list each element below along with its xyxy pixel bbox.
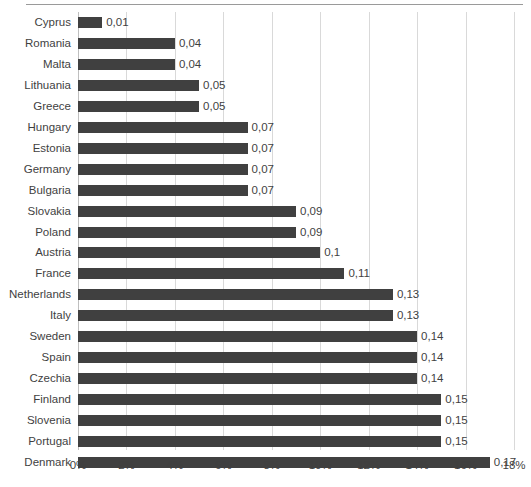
- value-label-netherlands: 0,13: [397, 284, 419, 305]
- category-label-poland: Poland: [0, 222, 71, 243]
- bar-czechia: [78, 373, 417, 384]
- category-label-portugal: Portugal: [0, 431, 71, 452]
- bar-netherlands: [78, 289, 393, 300]
- x-tick-12%: 12%: [357, 455, 380, 475]
- chart-row: Lithuania0,05: [0, 75, 531, 96]
- x-tick-18%: 18%: [502, 455, 525, 475]
- bar-france: [78, 268, 344, 279]
- category-label-estonia: Estonia: [0, 138, 71, 159]
- bar-chart: Cyprus0,01Romania0,04Malta0,04Lithuania0…: [0, 0, 531, 487]
- category-label-spain: Spain: [0, 347, 71, 368]
- value-label-cyprus: 0,01: [106, 12, 128, 33]
- chart-row: Bulgaria0,07: [0, 180, 531, 201]
- value-label-estonia: 0,07: [252, 138, 274, 159]
- category-label-hungary: Hungary: [0, 117, 71, 138]
- value-label-malta: 0,04: [179, 54, 201, 75]
- value-label-portugal: 0,15: [445, 431, 467, 452]
- bar-lithuania: [78, 80, 199, 91]
- bar-cyprus: [78, 17, 102, 28]
- bar-spain: [78, 352, 417, 363]
- category-label-malta: Malta: [0, 54, 71, 75]
- value-label-sweden: 0,14: [421, 326, 443, 347]
- chart-row: Romania0,04: [0, 33, 531, 54]
- value-label-poland: 0,09: [300, 222, 322, 243]
- bar-germany: [78, 164, 248, 175]
- chart-row: Greece0,05: [0, 96, 531, 117]
- value-label-slovakia: 0,09: [300, 201, 322, 222]
- bar-bulgaria: [78, 185, 248, 196]
- chart-row: Malta0,04: [0, 54, 531, 75]
- value-label-italy: 0,13: [397, 305, 419, 326]
- bar-italy: [78, 310, 393, 321]
- chart-row: Italy0,13: [0, 305, 531, 326]
- chart-row: Czechia0,14: [0, 368, 531, 389]
- bar-finland: [78, 394, 441, 405]
- x-tick-10%: 10%: [309, 455, 332, 475]
- category-label-germany: Germany: [0, 159, 71, 180]
- bar-portugal: [78, 436, 441, 447]
- category-label-cyprus: Cyprus: [0, 12, 71, 33]
- value-label-france: 0,11: [348, 263, 370, 284]
- chart-row: Slovenia0,15: [0, 410, 531, 431]
- chart-row: Estonia0,07: [0, 138, 531, 159]
- bar-hungary: [78, 122, 248, 133]
- x-tick-0%: 0%: [70, 455, 87, 475]
- value-label-greece: 0,05: [203, 96, 225, 117]
- value-label-finland: 0,15: [445, 389, 467, 410]
- category-label-sweden: Sweden: [0, 326, 71, 347]
- bar-malta: [78, 59, 175, 70]
- value-label-germany: 0,07: [252, 159, 274, 180]
- category-label-czechia: Czechia: [0, 368, 71, 389]
- chart-row: Spain0,14: [0, 347, 531, 368]
- chart-row: France0,11: [0, 263, 531, 284]
- category-label-slovenia: Slovenia: [0, 410, 71, 431]
- chart-row: Poland0,09: [0, 222, 531, 243]
- chart-row: Finland0,15: [0, 389, 531, 410]
- plot-area: Cyprus0,01Romania0,04Malta0,04Lithuania0…: [0, 0, 531, 452]
- chart-row: Portugal0,15: [0, 431, 531, 452]
- bar-romania: [78, 38, 175, 49]
- value-label-lithuania: 0,05: [203, 75, 225, 96]
- bar-poland: [78, 227, 296, 238]
- x-tick-2%: 2%: [118, 455, 135, 475]
- bar-slovakia: [78, 206, 296, 217]
- value-label-hungary: 0,07: [252, 117, 274, 138]
- bar-sweden: [78, 331, 417, 342]
- chart-row: Cyprus0,01: [0, 12, 531, 33]
- category-label-italy: Italy: [0, 305, 71, 326]
- category-label-france: France: [0, 263, 71, 284]
- value-label-romania: 0,04: [179, 33, 201, 54]
- chart-row: Slovakia0,09: [0, 201, 531, 222]
- chart-row: Austria0,1: [0, 242, 531, 263]
- value-label-spain: 0,14: [421, 347, 443, 368]
- x-tick-8%: 8%: [263, 455, 280, 475]
- bar-slovenia: [78, 415, 441, 426]
- x-tick-6%: 6%: [215, 455, 232, 475]
- category-label-bulgaria: Bulgaria: [0, 180, 71, 201]
- chart-row: Sweden0,14: [0, 326, 531, 347]
- category-label-finland: Finland: [0, 389, 71, 410]
- category-label-austria: Austria: [0, 242, 71, 263]
- category-label-netherlands: Netherlands: [0, 284, 71, 305]
- value-label-czechia: 0,14: [421, 368, 443, 389]
- x-tick-4%: 4%: [167, 455, 184, 475]
- value-label-austria: 0,1: [324, 242, 340, 263]
- category-label-greece: Greece: [0, 96, 71, 117]
- category-label-lithuania: Lithuania: [0, 75, 71, 96]
- bar-greece: [78, 101, 199, 112]
- x-tick-14%: 14%: [406, 455, 429, 475]
- chart-row: Germany0,07: [0, 159, 531, 180]
- category-label-romania: Romania: [0, 33, 71, 54]
- bar-estonia: [78, 143, 248, 154]
- bar-austria: [78, 247, 320, 258]
- value-label-slovenia: 0,15: [445, 410, 467, 431]
- category-label-slovakia: Slovakia: [0, 201, 71, 222]
- x-axis-tick-labels: 0%2%4%6%8%10%12%14%16%18%: [0, 455, 531, 475]
- x-tick-16%: 16%: [454, 455, 477, 475]
- chart-row: Netherlands0,13: [0, 284, 531, 305]
- value-label-bulgaria: 0,07: [252, 180, 274, 201]
- chart-row: Hungary0,07: [0, 117, 531, 138]
